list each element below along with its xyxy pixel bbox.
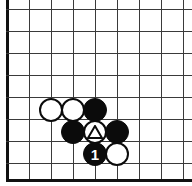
go-stone-black[interactable] xyxy=(61,120,85,144)
grid-line-horizontal xyxy=(6,31,192,32)
go-stone-white[interactable] xyxy=(105,142,129,166)
triangle-marker-icon xyxy=(85,122,105,142)
board-edge-bottom xyxy=(6,179,192,182)
grid-line-vertical xyxy=(73,0,74,182)
go-stone-white[interactable] xyxy=(39,98,63,122)
go-stone-white[interactable] xyxy=(61,98,85,122)
go-board[interactable]: 1 xyxy=(0,0,192,186)
grid-line-horizontal xyxy=(6,53,192,54)
grid-line-horizontal xyxy=(6,75,192,76)
grid-line-vertical xyxy=(161,0,162,182)
grid-line-vertical xyxy=(29,0,30,182)
go-stone-black-move-1[interactable]: 1 xyxy=(83,142,107,166)
grid-line-vertical xyxy=(139,0,140,182)
grid-line-vertical xyxy=(51,0,52,182)
grid-line-vertical xyxy=(183,0,184,182)
go-diagram-figure: 12 1 xyxy=(0,0,192,186)
stone-move-number: 1 xyxy=(84,143,106,165)
go-stone-black[interactable] xyxy=(105,120,129,144)
go-stone-black[interactable] xyxy=(83,98,107,122)
grid-line-horizontal xyxy=(6,9,192,10)
go-stone-white[interactable] xyxy=(83,120,107,144)
board-edge-left xyxy=(6,0,9,182)
